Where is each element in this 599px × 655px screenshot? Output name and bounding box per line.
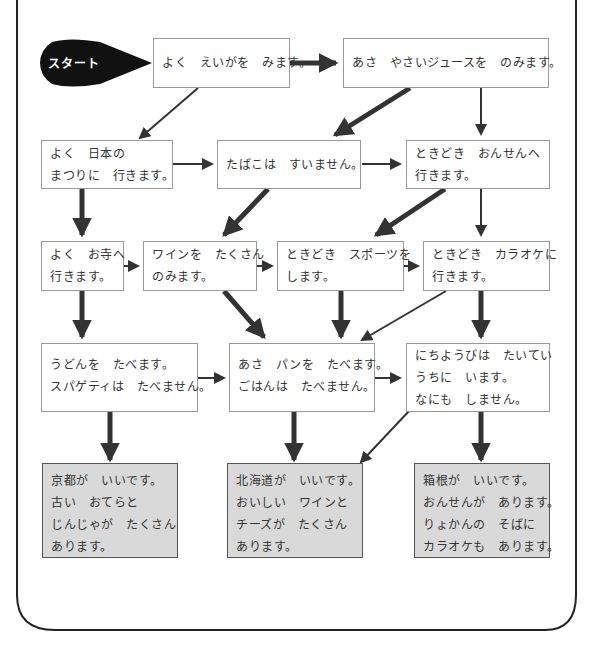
arrow-wine-bread — [224, 291, 264, 337]
arrow-sunday-hokkaido — [361, 410, 410, 462]
node-movies: よく えいがを みます。 — [153, 38, 290, 88]
arrow-karaoke-bread — [362, 291, 446, 340]
node-wine: ワインを たくさん のみます。 — [143, 241, 257, 291]
node-karaoke: ときどき カラオケに 行きます。 — [423, 241, 550, 291]
node-bread: あさ パンを たべます。 ごはんは たべません。 — [229, 343, 375, 412]
node-temple: よく お寺へ 行きます。 — [41, 241, 124, 291]
arrow-movies-festival — [140, 88, 198, 138]
node-sports: ときどき スポーツを します。 — [277, 241, 404, 291]
start-label: スタート — [48, 54, 100, 71]
arrow-onsen-sports — [376, 189, 445, 235]
node-sunday: にちようびは たいてい うちに います。 なにも しません。 — [406, 343, 550, 412]
node-smoke: たばこは すいません。 — [217, 140, 361, 189]
node-juice: あさ やさいジュースを のみます。 — [343, 38, 549, 88]
result-hakone: 箱根が いいです。 おんせんが あります。 りょかんの そばに カラオケも あり… — [414, 463, 550, 558]
node-onsen: ときどき おんせんへ 行きます。 — [406, 140, 550, 189]
node-festival: よく 日本の まつりに 行きます。 — [41, 140, 173, 189]
result-hokkaido: 北海道が いいです。 おいしい ワインと チーズが たくさん あります。 — [227, 463, 363, 558]
arrow-juice-smoke — [335, 88, 410, 135]
arrow-smoke-wine — [224, 189, 268, 235]
result-kyoto: 京都が いいです。 古い おてらと じんじゃが たくさん あります。 — [42, 463, 178, 558]
node-udon: うどんを たべます。 スパゲティは たべません。 — [41, 343, 198, 412]
